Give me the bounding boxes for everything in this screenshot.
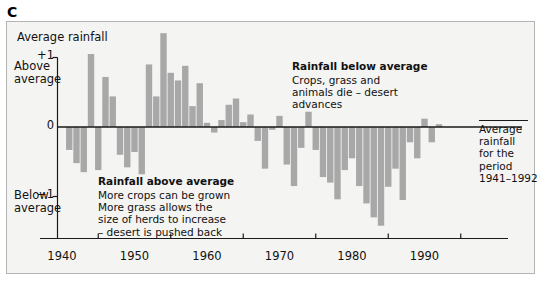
annotation-below-average-title: Rainfall below average <box>292 60 428 72</box>
annotation-below-average-body: Crops, grass and animals die – desert ad… <box>292 74 398 110</box>
annotation-above-average-title: Rainfall above average <box>98 175 234 187</box>
y-axis-above-average-label: Aboveaverage <box>14 60 61 85</box>
x-tick-label-1940: 1940 <box>47 249 76 263</box>
figure-frame <box>6 21 535 274</box>
x-tick-label-1960: 1960 <box>192 249 221 263</box>
figure-root: C Average rainfall +1 0 −1 Aboveaverage … <box>0 0 543 281</box>
x-tick-label-1990: 1990 <box>410 249 439 263</box>
baseline-side-note: Average rainfall for the period 1941–199… <box>479 123 543 184</box>
chart-axis-title: Average rainfall <box>17 30 108 44</box>
annotation-above-average-body: More crops can be grown More grass allow… <box>98 189 230 238</box>
y-tick-zero: 0 <box>28 118 54 132</box>
annotation-above-average: Rainfall above averageMore crops can be … <box>98 163 234 238</box>
y-axis-below-average-label: Belowaverage <box>14 189 61 214</box>
x-tick-label-1980: 1980 <box>337 249 366 263</box>
x-tick-label-1950: 1950 <box>120 249 149 263</box>
panel-letter: C <box>7 4 17 20</box>
x-tick-label-1970: 1970 <box>265 249 294 263</box>
annotation-below-average: Rainfall below averageCrops, grass and a… <box>292 48 428 111</box>
